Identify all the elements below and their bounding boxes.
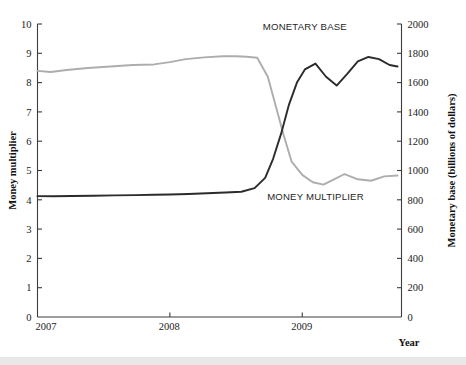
x-axis-title: Year (399, 337, 420, 348)
left-tick-label: 1 (26, 282, 31, 293)
left-axis-ticks: 012345678910 (21, 19, 42, 323)
left-axis-title: Money multiplier (7, 131, 18, 210)
right-tick-label: 600 (408, 224, 424, 235)
right-tick-label: 0 (408, 312, 413, 323)
right-tick-label: 1000 (408, 165, 429, 176)
right-axis-title: Monetary base (billions of dollars) (446, 93, 458, 248)
right-tick-label: 800 (408, 195, 424, 206)
x-tick-label: 2009 (291, 321, 312, 332)
right-tick-label: 1400 (408, 107, 429, 118)
right-tick-label: 1200 (408, 136, 429, 147)
money-multiplier-monetary-base-chart: 0123456789100200400600800100012001400160… (0, 0, 466, 365)
right-tick-label: 2000 (408, 19, 429, 30)
x-tick-label: 2008 (159, 321, 180, 332)
left-tick-label: 8 (26, 77, 31, 88)
left-tick-label: 5 (26, 165, 31, 176)
left-tick-label: 3 (26, 224, 31, 235)
page-footer-band (0, 357, 466, 365)
series-line-money-multiplier (38, 56, 398, 184)
x-axis-ticks: 200720082009 (36, 313, 313, 333)
right-tick-label: 1800 (408, 48, 429, 59)
left-tick-label: 7 (26, 107, 31, 118)
left-tick-label: 2 (26, 253, 31, 264)
right-tick-label: 400 (408, 253, 424, 264)
left-tick-label: 4 (26, 195, 32, 206)
left-tick-label: 6 (26, 136, 31, 147)
right-tick-label: 1600 (408, 77, 429, 88)
figure-container: 0123456789100200400600800100012001400160… (0, 0, 466, 365)
annotation-monetary-base: MONETARY BASE (263, 21, 347, 32)
axis-titles: Money multiplierMonetary base (billions … (7, 93, 458, 348)
left-tick-label: 9 (26, 48, 31, 59)
left-tick-label: 10 (21, 19, 32, 30)
x-tick-label: 2007 (36, 321, 57, 332)
left-tick-label: 0 (26, 312, 31, 323)
right-tick-label: 200 (408, 282, 424, 293)
annotation-money-multiplier: MONEY MULTIPLIER (267, 191, 364, 202)
